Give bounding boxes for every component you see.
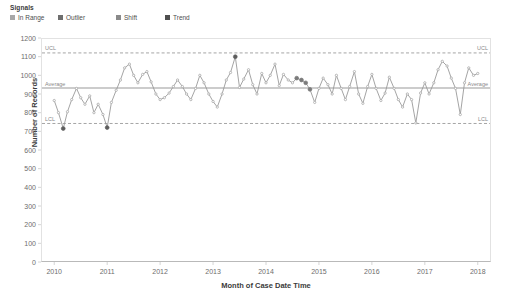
data-point-in-range[interactable] [353,70,355,72]
data-point-in-range[interactable] [97,103,99,105]
data-point-in-range[interactable] [172,85,174,87]
data-point-in-range[interactable] [349,85,351,87]
data-point-in-range[interactable] [314,101,316,103]
data-point-in-range[interactable] [137,82,139,84]
data-point-in-range[interactable] [384,92,386,94]
data-point-in-range[interactable] [424,82,426,84]
data-point-in-range[interactable] [282,73,284,75]
data-point-in-range[interactable] [477,72,479,74]
data-point-in-range[interactable] [463,82,465,84]
data-point-in-range[interactable] [163,97,165,99]
data-point-in-range[interactable] [216,106,218,108]
data-point-in-range[interactable] [203,82,205,84]
data-point-in-range[interactable] [401,106,403,108]
data-point-in-range[interactable] [225,79,227,81]
data-point-in-range[interactable] [199,74,201,76]
data-point-in-range[interactable] [102,113,104,115]
data-point-in-range[interactable] [71,98,73,100]
data-point-in-range[interactable] [190,98,192,100]
data-point-in-range[interactable] [388,76,390,78]
data-point-in-range[interactable] [110,101,112,103]
data-point-in-range[interactable] [437,69,439,71]
data-point-in-range[interactable] [441,60,443,62]
data-point-in-range[interactable] [446,65,448,67]
y-tick-label: 100 [24,240,36,247]
data-point-in-range[interactable] [371,73,373,75]
data-point-in-range[interactable] [142,73,144,75]
data-point-in-range[interactable] [375,87,377,89]
data-point-in-range[interactable] [89,95,91,97]
data-point-in-range[interactable] [256,93,258,95]
data-point-in-range[interactable] [229,71,231,73]
data-point-in-range[interactable] [327,84,329,86]
data-point-in-range[interactable] [358,93,360,95]
y-tick-label: 500 [24,165,36,172]
data-point-outlier[interactable] [105,126,109,130]
data-point-in-range[interactable] [194,87,196,89]
data-point-in-range[interactable] [318,87,320,89]
data-point-in-range[interactable] [247,69,249,71]
data-point-in-range[interactable] [133,74,135,76]
data-point-outlier[interactable] [61,127,65,131]
data-point-in-range[interactable] [128,63,130,65]
data-point-in-range[interactable] [119,79,121,81]
data-point-in-range[interactable] [344,98,346,100]
data-point-in-range[interactable] [291,82,293,84]
data-point-in-range[interactable] [261,72,263,74]
data-point-in-range[interactable] [433,82,435,84]
data-point-in-range[interactable] [124,67,126,69]
data-point-in-range[interactable] [468,67,470,69]
data-point-in-range[interactable] [93,112,95,114]
data-point-in-range[interactable] [53,99,55,101]
data-point-in-range[interactable] [181,85,183,87]
y-tick-label: 0 [32,259,36,266]
data-point-shift[interactable] [295,76,299,80]
data-point-in-range[interactable] [322,77,324,79]
data-point-in-range[interactable] [185,93,187,95]
data-point-in-range[interactable] [212,100,214,102]
data-point-in-range[interactable] [335,74,337,76]
data-point-in-range[interactable] [459,113,461,115]
data-point-in-range[interactable] [340,87,342,89]
data-point-in-range[interactable] [221,93,223,95]
data-point-in-range[interactable] [428,93,430,95]
data-point-in-range[interactable] [269,74,271,76]
data-point-in-range[interactable] [115,89,117,91]
data-point-in-range[interactable] [397,98,399,100]
data-point-in-range[interactable] [84,103,86,105]
data-point-in-range[interactable] [75,87,77,89]
data-point-in-range[interactable] [362,102,364,104]
data-point-in-range[interactable] [367,85,369,87]
data-point-in-range[interactable] [243,78,245,80]
data-point-in-range[interactable] [208,93,210,95]
data-point-shift[interactable] [300,78,304,82]
data-point-in-range[interactable] [380,99,382,101]
data-point-in-range[interactable] [168,92,170,94]
data-point-in-range[interactable] [472,74,474,76]
data-point-in-range[interactable] [287,79,289,81]
data-point-in-range[interactable] [80,97,82,99]
data-point-in-range[interactable] [265,82,267,84]
data-point-in-range[interactable] [331,93,333,95]
data-point-in-range[interactable] [454,87,456,89]
data-point-in-range[interactable] [176,79,178,81]
data-point-shift[interactable] [304,81,308,85]
data-point-in-range[interactable] [278,84,280,86]
data-point-in-range[interactable] [274,63,276,65]
data-point-in-range[interactable] [410,98,412,100]
data-point-in-range[interactable] [406,93,408,95]
data-point-shift[interactable] [308,87,312,91]
data-point-in-range[interactable] [415,122,417,124]
data-point-in-range[interactable] [155,93,157,95]
data-point-outlier[interactable] [233,55,237,59]
data-point-in-range[interactable] [419,92,421,94]
data-point-in-range[interactable] [238,86,240,88]
data-point-in-range[interactable] [66,111,68,113]
data-point-in-range[interactable] [150,81,152,83]
data-point-in-range[interactable] [252,84,254,86]
data-point-in-range[interactable] [393,87,395,89]
data-point-in-range[interactable] [57,112,59,114]
data-point-in-range[interactable] [159,98,161,100]
data-point-in-range[interactable] [146,70,148,72]
data-point-in-range[interactable] [450,77,452,79]
